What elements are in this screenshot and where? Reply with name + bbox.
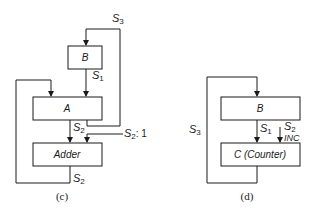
diagram-canvas: B A Adder S3 S1 S2 S2: 1 S2 (c) B xyxy=(0,0,313,213)
box-a-label: A xyxy=(63,103,71,114)
label-s3: S3 xyxy=(112,12,124,26)
label-s2-mid: S2 xyxy=(73,121,85,135)
diagram-d: B C (Counter) S3 S1 S2 INC (d) xyxy=(189,77,300,203)
label-s3-d: S3 xyxy=(189,123,201,137)
s2-feedback-line xyxy=(16,80,70,183)
label-s2-bottom: S2 xyxy=(73,172,85,186)
box-counter-label: C (Counter) xyxy=(234,149,286,160)
label-inc: INC xyxy=(284,133,300,143)
box-adder-label: Adder xyxy=(53,149,81,160)
label-s1: S1 xyxy=(92,69,104,83)
label-s2-d: S2 xyxy=(284,120,296,134)
s3-loop-line xyxy=(207,77,257,183)
s2-one-input-line xyxy=(87,134,123,142)
label-s1-d: S1 xyxy=(260,122,272,136)
label-s2-one: S2: 1 xyxy=(124,127,147,141)
box-b-d-label: B xyxy=(257,103,264,114)
caption-c: (c) xyxy=(56,190,69,203)
diagram-figure: B A Adder S3 S1 S2 S2: 1 S2 (c) B xyxy=(0,0,313,213)
box-b-label: B xyxy=(82,52,89,63)
caption-d: (d) xyxy=(241,190,254,203)
diagram-c: B A Adder S3 S1 S2 S2: 1 S2 (c) xyxy=(16,12,147,203)
